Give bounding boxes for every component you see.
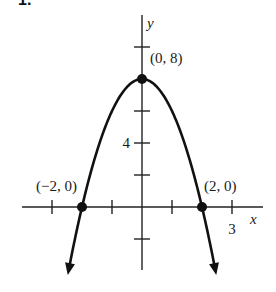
x-tick-label: 3 [228,221,236,237]
x-axis-label: x [249,211,257,227]
right-arrowhead-icon [209,262,219,275]
data-point [197,202,207,212]
data-point [137,74,147,84]
point-label: (0, 8) [150,50,183,67]
y-tick-label: 4 [123,135,131,151]
left-arrowhead-icon [65,262,75,275]
point-label: (−2, 0) [36,178,77,195]
data-point [77,202,87,212]
parabola-graph: (0, 8)(−2, 0)(2, 0) 34xy [0,0,276,292]
point-label: (2, 0) [204,178,237,195]
labeled-points: (0, 8)(−2, 0)(2, 0) [36,50,236,212]
y-axis-label: y [145,15,154,31]
